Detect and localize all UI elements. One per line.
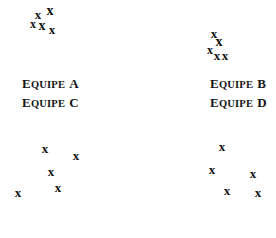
equipes-figure: xxxxx xxxxx xxxxx xxxxx EQUIPEAEQUIPEBEQ…: [0, 0, 276, 238]
scatter-point: x: [48, 165, 55, 178]
scatter-point: x: [214, 49, 221, 62]
team-label-initial: E: [210, 76, 219, 91]
team-label-d: EQUIPED: [210, 94, 267, 110]
scatter-point: x: [30, 18, 36, 30]
team-label-initial: E: [210, 95, 219, 110]
scatter-point: x: [15, 186, 22, 199]
team-label-body: QUIPE: [219, 98, 253, 109]
scatter-point: x: [255, 186, 262, 199]
scatter-point: x: [42, 142, 49, 155]
scatter-point: x: [222, 49, 229, 62]
team-label-body: QUIPE: [219, 79, 253, 90]
team-label-initial: E: [22, 76, 31, 91]
scatter-point: x: [55, 181, 62, 194]
scatter-point: x: [47, 4, 54, 18]
scatter-point: x: [250, 167, 257, 180]
team-label-letter: B: [257, 76, 266, 91]
team-label-initial: E: [22, 95, 31, 110]
team-label-body: QUIPE: [31, 79, 65, 90]
scatter-point: x: [209, 163, 216, 176]
scatter-point: x: [224, 184, 231, 197]
team-label-b: EQUIPEB: [210, 75, 266, 91]
scatter-plot-c: xxxxx: [0, 119, 138, 238]
team-label-letter: D: [257, 95, 267, 110]
team-label-letter: C: [69, 95, 79, 110]
team-label-c: EQUIPEC: [22, 94, 79, 110]
scatter-point: x: [39, 19, 46, 33]
team-label-letter: A: [69, 76, 79, 91]
scatter-plot-d: xxxxx: [138, 119, 276, 238]
scatter-point: x: [73, 149, 80, 162]
scatter-point: x: [49, 23, 56, 36]
panel-equipe-c: xxxxx: [0, 119, 138, 238]
scatter-point: x: [219, 140, 226, 153]
team-label-a: EQUIPEA: [22, 75, 79, 91]
panel-equipe-d: xxxxx: [138, 119, 276, 238]
scatter-point: x: [207, 44, 213, 56]
team-label-body: QUIPE: [31, 98, 65, 109]
